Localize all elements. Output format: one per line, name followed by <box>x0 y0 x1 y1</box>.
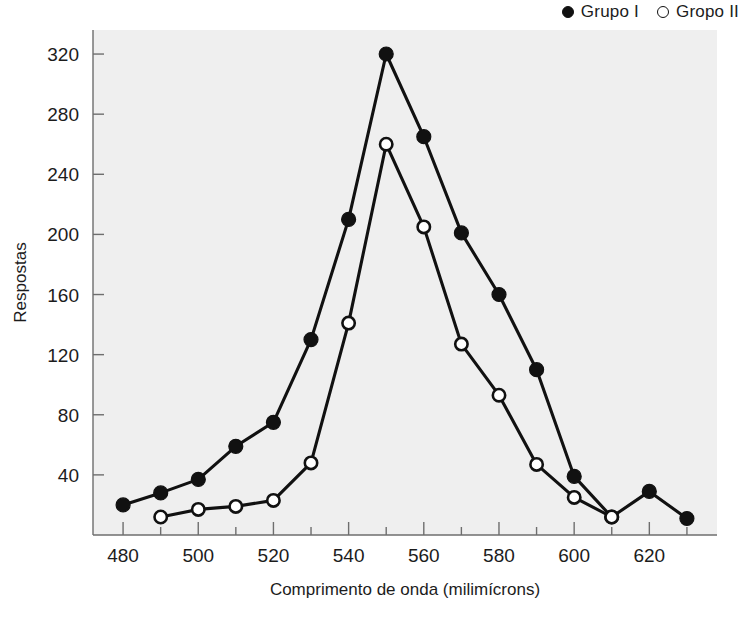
data-point <box>492 288 506 302</box>
data-point <box>155 511 167 523</box>
data-point <box>417 130 431 144</box>
x-axis-tick-labels: 480500520540560580600620 <box>107 545 665 566</box>
x-tick-label: 480 <box>107 545 139 566</box>
x-tick-label: 500 <box>182 545 214 566</box>
x-tick-label: 580 <box>483 545 515 566</box>
data-point <box>642 484 656 498</box>
data-point <box>418 221 430 233</box>
data-point <box>455 338 467 350</box>
chart-canvas: 4080120160200240280320 48050052054056058… <box>0 0 753 617</box>
y-tick-label: 120 <box>47 345 79 366</box>
data-point <box>305 457 317 469</box>
data-point <box>567 469 581 483</box>
y-axis-tick-labels: 4080120160200240280320 <box>47 44 79 486</box>
x-tick-label: 600 <box>558 545 590 566</box>
data-point <box>379 47 393 61</box>
data-point <box>530 458 542 470</box>
y-tick-label: 160 <box>47 285 79 306</box>
x-tick-label: 620 <box>633 545 665 566</box>
data-point <box>230 500 242 512</box>
x-tick-label: 520 <box>258 545 290 566</box>
data-point <box>116 498 130 512</box>
data-point <box>267 494 279 506</box>
data-point <box>680 512 694 526</box>
data-point <box>342 212 356 226</box>
data-point <box>530 363 544 377</box>
y-tick-label: 40 <box>58 465 79 486</box>
y-tick-label: 240 <box>47 164 79 185</box>
data-point <box>154 486 168 500</box>
y-tick-label: 280 <box>47 104 79 125</box>
data-point <box>229 439 243 453</box>
y-tick-label: 80 <box>58 405 79 426</box>
data-point <box>342 317 354 329</box>
x-axis-title: Comprimento de onda (milimícrons) <box>270 580 540 599</box>
y-tick-label: 320 <box>47 44 79 65</box>
data-point <box>380 138 392 150</box>
data-point <box>192 503 204 515</box>
data-point <box>454 226 468 240</box>
x-tick-label: 560 <box>408 545 440 566</box>
data-point <box>568 491 580 503</box>
data-point <box>304 333 318 347</box>
data-point <box>191 472 205 486</box>
data-point <box>606 511 618 523</box>
x-tick-label: 540 <box>333 545 365 566</box>
y-axis-title: Respostas <box>11 242 30 322</box>
data-point <box>493 389 505 401</box>
plot-area: 4080120160200240280320 48050052054056058… <box>0 0 753 617</box>
plot-background <box>93 30 717 535</box>
data-point <box>266 415 280 429</box>
chart-figure: Grupo I Gropo II 4080120160200240280320 … <box>0 0 753 617</box>
y-tick-label: 200 <box>47 224 79 245</box>
